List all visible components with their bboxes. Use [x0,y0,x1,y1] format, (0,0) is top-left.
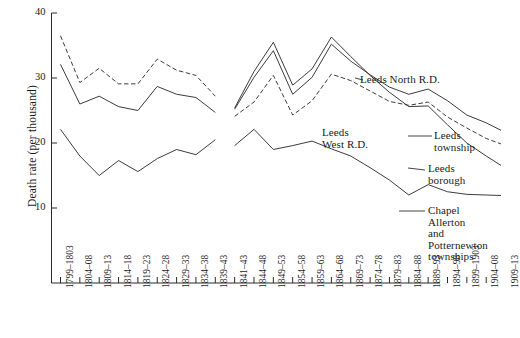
x-tick-label-15: 1869–73 [355,255,365,288]
series-label-leeds-township: Leeds township [434,130,475,153]
x-tick-label-9: 1841–43 [239,255,249,288]
x-tick-label-22: 1904–08 [490,255,500,288]
series-label-leeds-west-rd-line2: West R.D. [322,139,368,151]
x-tick-label-10: 1844–48 [258,255,268,288]
x-tick-label-5: 1824–28 [161,255,171,288]
series-line-3 [235,44,501,132]
x-tick-label-13: 1859–63 [316,255,326,288]
y-tick-label-10: 10 [24,201,46,212]
y-tick-label-20: 20 [24,136,46,147]
series-label-leeds-north-rd-line1: Leeds North R.D. [360,74,440,86]
x-tick-label-7: 1834–38 [200,255,210,288]
x-tick-label-8: 1839–43 [219,255,229,288]
series-label-leeds-west-rd: Leeds West R.D. [322,127,368,150]
x-tick-label-18: 1884–88 [413,255,423,288]
series-label-leeds-west-rd-line1: Leeds [322,127,368,139]
x-tick-label-11: 1849–53 [277,255,287,288]
x-tick-label-23: 1909–13 [510,255,520,288]
x-tick-label-16: 1874–78 [374,255,384,288]
y-tick-label-40: 40 [24,6,46,17]
series-line-2 [61,64,216,112]
series-label-leeds-borough-line1: Leeds [428,163,465,175]
x-tick-label-1: 1804–08 [84,255,94,288]
x-tick-label-4: 1819–23 [142,255,152,288]
series-label-chapel-line5: townships [428,251,488,263]
series-label-leeds-township-line2: township [434,142,475,154]
y-axis-ticks [52,13,58,208]
series-label-leeds-borough: Leeds borough [428,163,465,186]
series-label-leeds-township-line1: Leeds [434,130,475,142]
x-tick-label-17: 1879–83 [393,255,403,288]
series-label-leeds-borough-line2: borough [428,175,465,187]
series-line-5 [61,129,216,175]
axis-lines [52,13,441,283]
x-tick-label-3: 1814–18 [123,255,133,288]
series-label-chapel-line1: Chapel [428,205,488,217]
x-tick-label-6: 1829–33 [181,255,191,288]
x-tick-label-2: 1809–13 [103,255,113,288]
x-tick-label-14: 1864–68 [335,255,345,288]
x-tick-label-12: 1854–58 [297,255,307,288]
series-label-leeds-north-rd: Leeds North R.D. [360,74,440,86]
series-line-0 [61,36,216,96]
series-label-chapel-allerton: Chapel Allerton and Potternewton townshi… [428,205,488,263]
y-tick-label-30: 30 [24,71,46,82]
x-tick-label-0: 1799–1803 [65,245,75,288]
